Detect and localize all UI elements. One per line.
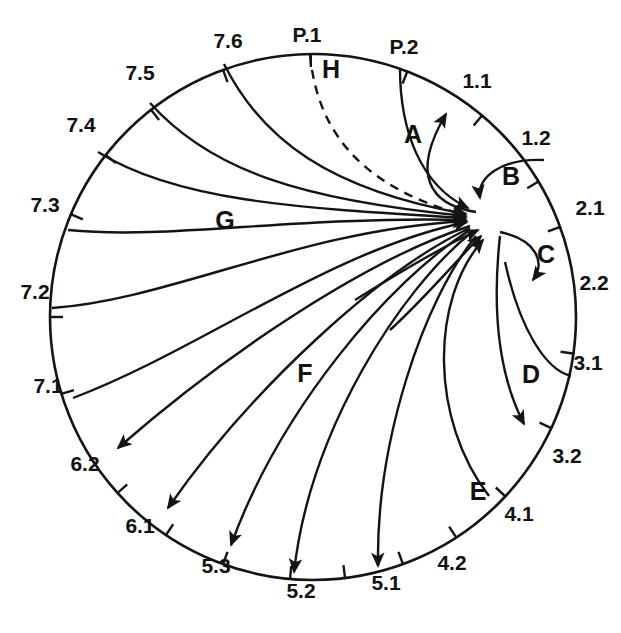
tick-5-1 (343, 565, 345, 579)
node-label-7-2: 7.2 (20, 280, 49, 303)
node-label-4-1: 4.1 (504, 502, 534, 525)
tick-7-3 (70, 214, 83, 219)
tick-1-2 (527, 181, 539, 188)
node-label-7-4: 7.4 (66, 113, 96, 136)
flow-path-7-2 (52, 221, 466, 308)
flow-label-G: G (215, 206, 234, 234)
node-label-1-1: 1.1 (462, 69, 492, 92)
node-label-6-2: 6.2 (70, 452, 99, 475)
node-label-P-2: P.2 (390, 35, 419, 58)
flow-label-E: E (470, 477, 487, 505)
flow-path-E (444, 240, 489, 496)
tick-6-2 (117, 484, 127, 493)
flow-path-C (500, 232, 538, 280)
node-label-2-1: 2.1 (575, 196, 605, 219)
flow-paths (52, 54, 571, 572)
flow-label-A: A (404, 120, 422, 148)
node-label-5-1: 5.1 (371, 571, 401, 594)
flow-label-D: D (522, 360, 540, 388)
tick-2-1 (548, 227, 561, 232)
flow-label-H: H (322, 55, 340, 83)
flow-label-B: B (502, 162, 520, 190)
node-label-7-6: 7.6 (213, 29, 242, 52)
node-label-3-2: 3.2 (552, 444, 581, 467)
diagram-canvas: P.1P.21.11.22.12.23.13.24.14.25.15.25.36… (0, 0, 621, 633)
tick-3-1 (540, 423, 553, 429)
flow-label-C: C (537, 240, 555, 268)
node-label-7-5: 7.5 (125, 61, 155, 84)
flow-path-7-6 (224, 64, 466, 214)
node-label-4-2: 4.2 (437, 551, 466, 574)
circular-flow-diagram: P.1P.21.11.22.12.23.13.24.14.25.15.25.36… (0, 0, 621, 633)
node-label-6-1: 6.1 (125, 514, 155, 537)
tick-5-2 (290, 566, 291, 580)
node-label-3-1: 3.1 (573, 351, 603, 374)
tick-4-2 (399, 552, 404, 565)
flow-path-F-5-1 (378, 236, 476, 566)
tick-1-1 (474, 115, 483, 126)
tick-4-1 (449, 527, 457, 539)
flow-path-D2 (505, 262, 571, 376)
flow-label-F: F (297, 359, 312, 387)
node-label-5-2: 5.2 (286, 579, 315, 602)
node-label-1-2: 1.2 (521, 126, 550, 149)
tick-6-1 (165, 524, 173, 536)
flow-path-D (497, 236, 524, 424)
node-label-7-1: 7.1 (33, 374, 63, 397)
node-label-2-2: 2.2 (579, 271, 608, 294)
tick-3-2 (496, 487, 506, 497)
node-label-5-3: 5.3 (201, 554, 230, 577)
node-label-7-3: 7.3 (30, 193, 59, 216)
flow-path-7-4 (98, 152, 466, 218)
tick-P-2 (403, 71, 408, 84)
node-label-P-1: P.1 (293, 23, 322, 46)
